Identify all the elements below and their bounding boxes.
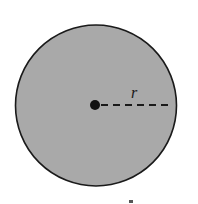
scan-mark [129, 200, 133, 203]
circle-diagram: r [0, 0, 198, 204]
radius-label: r [131, 84, 138, 101]
center-point [90, 100, 100, 110]
